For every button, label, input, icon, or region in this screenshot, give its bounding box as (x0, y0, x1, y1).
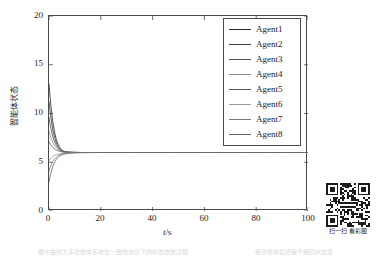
qr-code-icon[interactable] (326, 183, 370, 227)
page-bleed: 图中曲线为多智能体系统在一致性协议下的状态收敛过程 各智能体最终趋于相同状态值 (0, 249, 379, 257)
qr-block: 扫一扫 看彩图 (321, 183, 375, 235)
x-tick-label: 0 (36, 214, 60, 223)
figure-container: 20 15 10 5 0 0 20 40 60 80 100 t/s 智能体状态… (0, 0, 379, 257)
legend-swatch-icon (229, 134, 251, 135)
legend-item[interactable]: Agent6 (224, 97, 300, 112)
legend: Agent1Agent2Agent3Agent4Agent5Agent6Agen… (223, 18, 301, 146)
y-tick-label: 20 (21, 11, 43, 20)
x-tick-label: 80 (244, 214, 268, 223)
legend-item[interactable]: Agent4 (224, 67, 300, 82)
legend-swatch-icon (229, 29, 251, 30)
legend-swatch-icon (229, 119, 251, 120)
y-tick-label: 10 (21, 108, 43, 117)
legend-item-label: Agent1 (256, 25, 283, 34)
x-tick-label: 20 (88, 214, 112, 223)
legend-swatch-icon (229, 89, 251, 90)
y-tick-label: 15 (21, 59, 43, 68)
legend-item[interactable]: Agent7 (224, 112, 300, 127)
series-line (49, 153, 308, 182)
legend-item-label: Agent2 (256, 40, 283, 49)
legend-swatch-icon (229, 104, 251, 105)
page-bleed-left: 图中曲线为多智能体系统在一致性协议下的状态收敛过程 (38, 249, 188, 255)
legend-item[interactable]: Agent5 (224, 82, 300, 97)
legend-item-label: Agent3 (256, 55, 283, 64)
legend-swatch-icon (229, 74, 251, 75)
legend-item-label: Agent8 (256, 130, 283, 139)
x-axis-label-unit: /s (166, 227, 172, 237)
y-axis-label: 智能体状态 (8, 71, 19, 141)
x-tick-label: 100 (296, 214, 320, 223)
legend-item[interactable]: Agent8 (224, 127, 300, 142)
x-tick-label: 60 (192, 214, 216, 223)
x-axis-label: t/s (163, 227, 172, 237)
legend-item[interactable]: Agent3 (224, 52, 300, 67)
legend-item-label: Agent5 (256, 85, 283, 94)
legend-item-label: Agent4 (256, 70, 283, 79)
series-line (49, 153, 308, 161)
legend-item-label: Agent7 (256, 115, 283, 124)
x-tick-label: 40 (140, 214, 164, 223)
legend-item[interactable]: Agent1 (224, 22, 300, 37)
legend-swatch-icon (229, 44, 251, 45)
series-line (49, 153, 308, 172)
y-tick-label: 5 (21, 157, 43, 166)
legend-item[interactable]: Agent2 (224, 37, 300, 52)
legend-swatch-icon (229, 59, 251, 60)
page-bleed-right: 各智能体最终趋于相同状态值 (255, 249, 333, 255)
qr-caption: 扫一扫 看彩图 (321, 228, 375, 235)
legend-item-label: Agent6 (256, 100, 283, 109)
